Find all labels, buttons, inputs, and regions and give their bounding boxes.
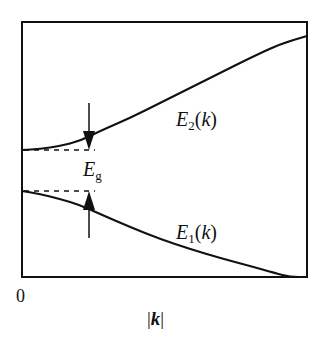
band-gap-label: Eg [82,158,102,183]
gap-arrow-down-icon [83,103,95,150]
lower-band-label: E1(k) [175,221,217,246]
band-structure-diagram: E2(k) E1(k) Eg 0 |k| [0,0,323,343]
gap-arrow-up-icon [83,191,95,238]
upper-band-label: E2(k) [175,108,217,133]
x-axis-label: |k| [147,308,164,329]
origin-label: 0 [16,286,25,306]
lower-band-curve [22,191,307,277]
upper-band-curve [22,36,307,150]
